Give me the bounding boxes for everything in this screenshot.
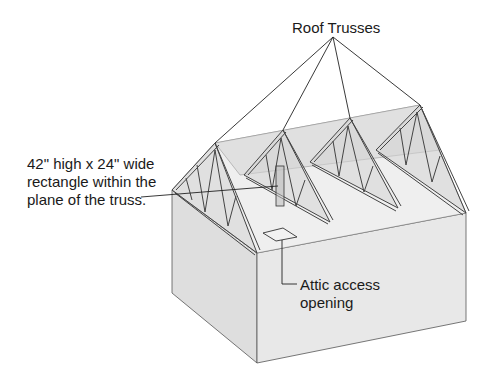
truss-callout-line3: plane of the truss.: [27, 191, 156, 209]
attic-callout-line2: opening: [300, 294, 380, 312]
truss-callout-line2: rectangle within the: [27, 173, 156, 191]
truss-opening-callout: 42" high x 24" wide rectangle within the…: [27, 155, 156, 209]
attic-access-callout: Attic access opening: [300, 276, 380, 312]
truss-callout-line1: 42" high x 24" wide: [27, 155, 156, 173]
roof-trusses-label: Roof Trusses: [292, 19, 380, 37]
attic-callout-line1: Attic access: [300, 276, 380, 294]
